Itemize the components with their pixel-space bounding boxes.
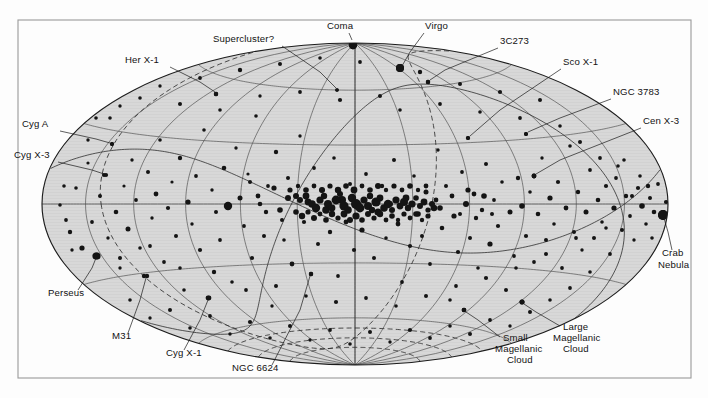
source-dot (622, 158, 626, 162)
source-dot (420, 218, 424, 222)
source-dot (70, 248, 73, 251)
source-dot (596, 198, 601, 203)
source-dot (518, 116, 522, 120)
source-dot (212, 270, 216, 274)
source-dot (407, 183, 413, 189)
source-dot (94, 116, 98, 120)
source-dot (359, 217, 365, 223)
source-dot (644, 222, 648, 226)
source-dot (74, 186, 78, 190)
source-dot (224, 202, 232, 210)
source-dot (194, 174, 198, 178)
source-dot (556, 180, 560, 184)
named-source-dot (207, 296, 212, 301)
source-dot (468, 332, 472, 336)
source-dot (290, 262, 295, 267)
source-dot (454, 284, 458, 288)
source-dot (268, 336, 272, 340)
source-dot (334, 300, 338, 304)
source-dot (448, 324, 452, 328)
source-dot (118, 266, 121, 269)
source-dot (504, 288, 508, 292)
source-dot (321, 193, 327, 199)
source-dot (250, 256, 254, 260)
source-dot (425, 207, 430, 212)
source-dot (646, 184, 650, 188)
source-dot (588, 270, 592, 274)
source-dot (480, 208, 484, 212)
source-dot (401, 211, 406, 216)
source-dot (484, 276, 488, 280)
source-dot (154, 192, 159, 197)
source-dot (367, 193, 373, 199)
source-dot (348, 342, 352, 346)
source-dot (425, 213, 430, 218)
source-dot (347, 217, 353, 223)
source-dot (280, 218, 284, 222)
source-dot (242, 224, 246, 228)
named-source-dot (93, 252, 100, 259)
source-dot (170, 180, 173, 183)
source-dot (568, 144, 572, 148)
source-dot (266, 184, 270, 188)
source-dot (400, 188, 405, 193)
source-dot (394, 304, 398, 308)
source-dot (148, 244, 152, 248)
map-label-small: Small (503, 332, 528, 343)
source-dot (428, 262, 432, 266)
map-label-cen-x-3: Cen X-3 (643, 115, 679, 126)
source-dot (244, 288, 248, 292)
named-source-dot (466, 136, 470, 140)
named-source-dot (214, 92, 218, 96)
source-dot (468, 236, 472, 240)
source-dot (351, 187, 358, 194)
source-dot (286, 176, 290, 180)
source-dot (270, 304, 273, 307)
source-dot (297, 197, 303, 203)
source-dot (650, 236, 654, 240)
source-dot (258, 202, 263, 207)
source-dot (312, 166, 316, 170)
map-label-ngc-3783: NGC 3783 (613, 86, 660, 97)
source-dot (364, 296, 368, 300)
source-dot (528, 310, 532, 314)
source-dot (375, 183, 381, 189)
source-dot (429, 201, 435, 207)
source-dot (478, 110, 482, 114)
source-dot (343, 183, 349, 189)
source-dot (296, 184, 300, 188)
source-dot (218, 108, 222, 112)
source-dot (578, 140, 582, 144)
source-dot (222, 166, 227, 171)
source-dot (384, 188, 388, 192)
source-dot (600, 220, 604, 224)
source-dot (308, 338, 311, 341)
source-dot (248, 180, 252, 184)
source-dot (178, 156, 182, 160)
source-dot (338, 98, 342, 102)
source-dot (440, 226, 445, 231)
source-dot (178, 102, 182, 106)
source-dot (490, 212, 494, 216)
source-dot (420, 234, 424, 238)
source-dot (396, 222, 401, 227)
source-dot (604, 184, 608, 188)
source-dot (413, 211, 419, 217)
source-dot (262, 234, 266, 238)
source-dot (391, 183, 396, 188)
source-dot (305, 209, 310, 214)
map-label-sco-x-1: Sco X-1 (563, 56, 598, 67)
source-dot (138, 96, 142, 100)
map-label-magellanic: Magellanic (495, 343, 542, 354)
source-dot (638, 174, 642, 178)
source-dot (256, 194, 261, 199)
source-dot (126, 227, 131, 232)
source-dot (538, 98, 542, 102)
map-label-cyg-x-1: Cyg X-1 (166, 347, 202, 358)
map-label-perseus: Perseus (48, 287, 84, 298)
source-dot (336, 274, 340, 278)
source-dot (264, 210, 268, 214)
source-dot (319, 187, 325, 193)
named-source-dot (110, 142, 114, 146)
source-dot (312, 204, 320, 212)
